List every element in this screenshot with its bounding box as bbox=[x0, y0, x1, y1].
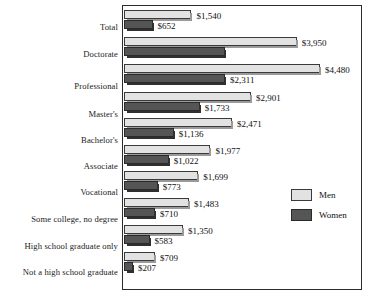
bar-women bbox=[124, 208, 155, 217]
bar-value-label: $652 bbox=[158, 21, 176, 31]
bar-value-label: $1,699 bbox=[203, 172, 228, 182]
bar-women bbox=[124, 47, 225, 56]
bar-men bbox=[124, 225, 183, 234]
bar-women bbox=[124, 235, 150, 244]
bar-women bbox=[124, 262, 133, 271]
bar-men bbox=[124, 64, 320, 73]
bar-women bbox=[124, 20, 153, 29]
bar-value-label: $2,901 bbox=[256, 93, 281, 103]
bar-chart: Total Doctorate Professional Master's Ba… bbox=[0, 0, 370, 301]
bar-value-label: $773 bbox=[163, 182, 181, 192]
bar-men bbox=[124, 171, 198, 180]
legend-item-women: Women bbox=[291, 208, 357, 225]
bar-value-label: $3,950 bbox=[302, 38, 327, 48]
bar-value-label: $4,480 bbox=[325, 65, 350, 75]
bar-women bbox=[124, 181, 158, 190]
bar-men bbox=[124, 92, 251, 101]
bar-value-label: $709 bbox=[160, 253, 178, 263]
bar-value-label: $1,022 bbox=[174, 156, 199, 166]
bar-value-label: $1,540 bbox=[196, 11, 221, 21]
bar-value-label: $1,733 bbox=[205, 103, 230, 113]
bar-value-label: $583 bbox=[155, 236, 173, 246]
legend-item-men: Men bbox=[291, 188, 357, 205]
bar-men bbox=[124, 198, 189, 207]
bar-men bbox=[124, 10, 191, 19]
bar-men bbox=[124, 145, 210, 154]
bar-value-label: $1,136 bbox=[179, 129, 204, 139]
legend-label-women: Women bbox=[319, 209, 347, 221]
bar-women bbox=[124, 128, 174, 137]
bar-women bbox=[124, 102, 200, 111]
legend-swatch-men-icon bbox=[291, 189, 312, 201]
bar-value-label: $2,311 bbox=[230, 75, 254, 85]
bar-value-label: $207 bbox=[138, 263, 156, 273]
legend-label-men: Men bbox=[319, 189, 336, 201]
bar-value-label: $1,977 bbox=[215, 146, 240, 156]
bar-value-label: $1,483 bbox=[194, 199, 219, 209]
chart-legend: Men Women bbox=[291, 188, 357, 228]
bar-women bbox=[124, 74, 225, 83]
bar-men bbox=[124, 118, 232, 127]
bar-men bbox=[124, 252, 155, 261]
bar-value-label: $1,350 bbox=[188, 226, 213, 236]
bar-value-label: $2,471 bbox=[237, 119, 262, 129]
bars-layer: $1,540$3,950$4,480$2,901$2,471$1,977$1,6… bbox=[0, 0, 370, 301]
legend-swatch-women-icon bbox=[291, 209, 312, 221]
bar-men bbox=[124, 37, 297, 46]
bar-women bbox=[124, 155, 169, 164]
bar-value-label: $710 bbox=[160, 209, 178, 219]
